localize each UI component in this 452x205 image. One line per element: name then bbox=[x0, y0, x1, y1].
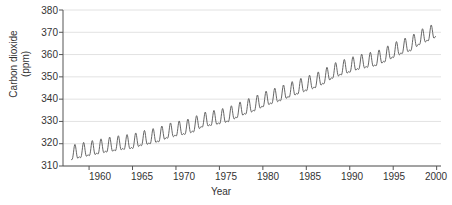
axis-ticks bbox=[59, 10, 437, 170]
co2-data-line bbox=[72, 25, 436, 160]
